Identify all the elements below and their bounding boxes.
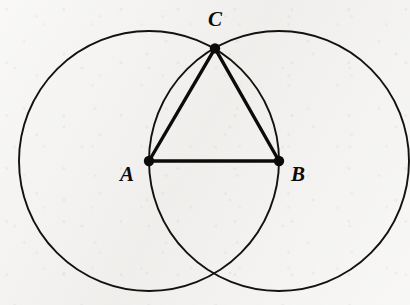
- vertex-point-A: [144, 156, 154, 166]
- triangle-layer: [149, 48, 279, 161]
- segment-BC: [215, 48, 279, 161]
- point-label-A: A: [118, 162, 134, 186]
- vertex-dots-layer: [144, 43, 284, 166]
- vertex-point-C: [210, 43, 220, 53]
- vertex-point-B: [274, 156, 284, 166]
- point-label-C: C: [208, 7, 223, 31]
- point-label-B: B: [290, 162, 305, 186]
- construction-drawing: A B C: [0, 0, 410, 305]
- geometry-figure: A B C: [0, 0, 410, 305]
- segment-AC: [149, 48, 215, 161]
